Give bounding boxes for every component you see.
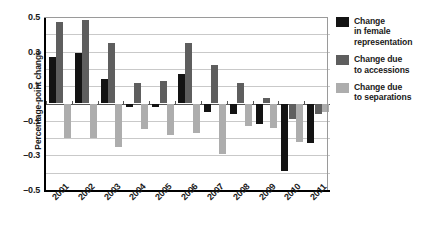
legend-label-female-representation: Change in female representation — [354, 16, 412, 47]
bar — [49, 57, 56, 104]
bar-cluster — [304, 17, 330, 190]
bar — [64, 104, 71, 139]
bar-cluster — [278, 17, 304, 190]
axis-tick — [149, 101, 150, 104]
axis-tick — [227, 101, 228, 104]
bar-cluster — [175, 17, 201, 190]
legend-label-line: representation — [354, 37, 412, 47]
legend-label-line: to accessions — [354, 65, 410, 75]
bar — [185, 43, 192, 104]
bar — [178, 74, 185, 103]
y-axis-tick-label: 0.5 — [2, 12, 40, 22]
bar — [160, 81, 167, 103]
legend-item-separations: Change due to separations — [336, 82, 432, 103]
axis-tick — [175, 101, 176, 104]
bar-cluster — [201, 17, 227, 190]
bar-cluster — [98, 17, 124, 190]
bar — [263, 98, 270, 103]
bar — [245, 104, 252, 126]
bar — [230, 104, 237, 114]
legend-label-line: in female — [354, 26, 412, 36]
bar — [219, 104, 226, 154]
y-axis-tick-labels: 0.50.30.1–0.1–0.3–0.5 — [0, 0, 40, 237]
axis-tick — [98, 101, 99, 104]
y-axis-tick-label: –0.3 — [2, 150, 40, 160]
chart-legend: Change in female representation Change d… — [336, 16, 432, 110]
bar — [108, 43, 115, 104]
axis-tick — [123, 101, 124, 104]
bar — [296, 104, 303, 142]
y-axis-tick-label: 0.3 — [2, 47, 40, 57]
bar — [152, 104, 159, 107]
bar-cluster — [46, 17, 72, 190]
legend-swatch-separations — [336, 83, 349, 93]
bar — [56, 22, 63, 103]
bar — [307, 104, 314, 144]
legend-label-separations: Change due to separations — [354, 82, 411, 103]
axis-tick — [278, 101, 279, 104]
legend-item-accessions: Change due to accessions — [336, 54, 432, 75]
y-axis-tick-label: –0.1 — [2, 116, 40, 126]
bar-cluster — [149, 17, 175, 190]
bar — [101, 79, 108, 103]
legend-swatch-female-representation — [336, 17, 349, 27]
legend-label-line: Change due — [354, 54, 410, 64]
bar — [270, 104, 277, 128]
axis-tick — [253, 101, 254, 104]
axis-tick — [304, 101, 305, 104]
plot-area — [44, 17, 330, 192]
y-axis-tick-label: –0.5 — [2, 185, 40, 195]
bar — [75, 53, 82, 103]
bar — [204, 104, 211, 113]
legend-swatch-accessions — [336, 55, 349, 65]
bar — [141, 104, 148, 130]
legend-label-line: Change — [354, 16, 412, 26]
axis-tick — [46, 101, 47, 104]
bar — [237, 83, 244, 104]
axis-tick — [201, 101, 202, 104]
bar — [167, 104, 174, 135]
bar — [211, 65, 218, 103]
bar — [90, 104, 97, 139]
bar — [256, 104, 263, 125]
bar — [322, 104, 329, 113]
legend-label-line: to separations — [354, 92, 411, 102]
legend-label-accessions: Change due to accessions — [354, 54, 410, 75]
bar-cluster — [253, 17, 279, 190]
legend-item-female-representation: Change in female representation — [336, 16, 432, 47]
bar-cluster — [123, 17, 149, 190]
bar — [126, 104, 133, 107]
legend-label-line: Change due — [354, 82, 411, 92]
bar — [115, 104, 122, 147]
bar-cluster — [227, 17, 253, 190]
chart-container: Percentage-point change 0.50.30.1–0.1–0.… — [0, 0, 432, 237]
y-axis-tick-label: 0.1 — [2, 81, 40, 91]
bar — [193, 104, 200, 133]
bar-cluster — [72, 17, 98, 190]
bar — [315, 104, 322, 114]
axis-tick — [72, 101, 73, 104]
bar — [281, 104, 288, 171]
bar — [134, 83, 141, 104]
bar — [289, 104, 296, 120]
bar — [82, 20, 89, 103]
